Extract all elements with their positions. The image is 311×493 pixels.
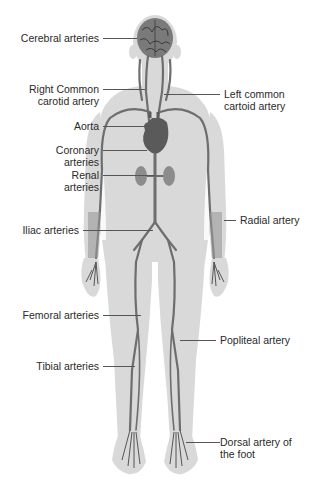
leader-tibial-arteries — [103, 366, 135, 367]
label-femoral-arteries: Femoral arteries — [23, 309, 99, 321]
label-aorta: Aorta — [74, 120, 99, 132]
label-popliteal-artery: Popliteal artery — [220, 334, 290, 346]
leader-radial-artery — [224, 220, 236, 221]
label-right-common-carotid: Right Common carotid artery — [29, 83, 99, 107]
label-radial-artery: Radial artery — [240, 214, 300, 226]
label-iliac-arteries: Iliac arteries — [22, 224, 79, 236]
leader-popliteal-artery — [180, 340, 216, 341]
label-dorsal-artery-foot: Dorsal artery of the foot — [220, 436, 292, 460]
leader-iliac-arteries — [83, 230, 153, 231]
label-tibial-arteries: Tibial arteries — [36, 360, 99, 372]
leader-renal-arteries — [103, 175, 155, 176]
label-cerebral-arteries: Cerebral arteries — [21, 32, 99, 44]
body-silhouette — [81, 15, 228, 474]
label-coronary-arteries: Coronary arteries — [56, 144, 99, 168]
label-left-common-carotid: Left common cartoid artery — [224, 88, 285, 112]
leader-dorsal-artery-foot — [186, 442, 220, 443]
leader-aorta — [103, 126, 153, 127]
leader-right-common-carotid — [103, 89, 145, 90]
leader-femoral-arteries — [103, 315, 141, 316]
label-renal-arteries: Renal arteries — [64, 169, 99, 193]
leader-coronary-arteries — [103, 150, 147, 151]
leader-left-common-carotid — [164, 94, 220, 95]
brain-icon — [137, 18, 173, 58]
human-body-figure — [0, 0, 311, 493]
leader-cerebral-arteries — [103, 38, 137, 39]
